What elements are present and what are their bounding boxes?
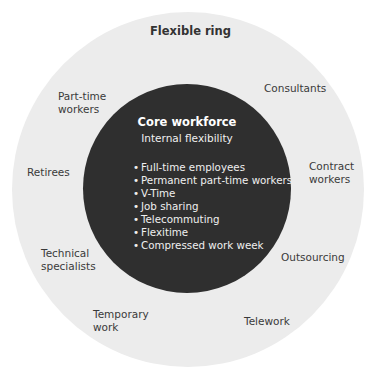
label-temporary-work: Temporary work — [93, 308, 149, 334]
label-telework: Telework — [244, 315, 290, 328]
bullet-icon: • — [133, 213, 141, 226]
label-contract-workers: Contract workers — [309, 160, 354, 186]
core-workforce-subtitle: Internal flexibility — [83, 132, 291, 144]
label-consultants: Consultants — [264, 82, 326, 95]
core-workforce-list: •Full-time employees •Permanent part-tim… — [133, 161, 292, 252]
list-item-text: V-Time — [141, 187, 175, 199]
label-line: Telework — [244, 315, 290, 328]
label-line: specialists — [41, 260, 96, 273]
label-technical-specialists: Technical specialists — [41, 247, 96, 273]
list-item-text: Flexitime — [141, 226, 188, 238]
core-workforce-title: Core workforce — [83, 115, 291, 129]
list-item: •Full-time employees — [133, 161, 292, 174]
list-item: •Permanent part-time workers — [133, 174, 292, 187]
bullet-icon: • — [133, 187, 141, 200]
label-outsourcing: Outsourcing — [281, 251, 345, 264]
label-line: Contract — [309, 160, 354, 173]
bullet-icon: • — [133, 174, 141, 187]
list-item: •Job sharing — [133, 200, 292, 213]
list-item: •Flexitime — [133, 226, 292, 239]
list-item-text: Compressed work week — [141, 239, 264, 251]
label-line: workers — [309, 173, 354, 186]
list-item: •V-Time — [133, 187, 292, 200]
list-item-text: Telecommuting — [141, 213, 220, 225]
bullet-icon: • — [133, 200, 141, 213]
list-item: •Telecommuting — [133, 213, 292, 226]
list-item: •Compressed work week — [133, 239, 292, 252]
label-line: Technical — [41, 247, 96, 260]
flexible-ring-title: Flexible ring — [0, 24, 381, 38]
label-line: work — [93, 321, 149, 334]
bullet-icon: • — [133, 239, 141, 252]
bullet-icon: • — [133, 226, 141, 239]
list-item-text: Job sharing — [141, 200, 199, 212]
bullet-icon: • — [133, 161, 141, 174]
label-line: Consultants — [264, 82, 326, 95]
list-item-text: Permanent part-time workers — [141, 174, 292, 186]
list-item-text: Full-time employees — [141, 161, 245, 173]
label-line: Retirees — [27, 166, 70, 179]
label-part-time-workers: Part-time workers — [58, 90, 106, 116]
label-line: Part-time — [58, 90, 106, 103]
label-line: Outsourcing — [281, 251, 345, 264]
label-line: Temporary — [93, 308, 149, 321]
label-retirees: Retirees — [27, 166, 70, 179]
